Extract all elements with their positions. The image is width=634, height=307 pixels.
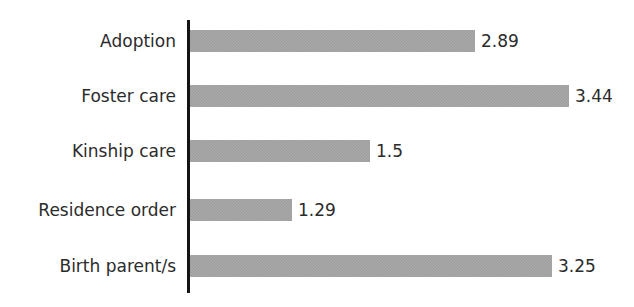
- horizontal-bar-chart: Adoption 2.89 Foster care 3.44 Kinship c…: [0, 0, 634, 307]
- value-label-birth-parents: 3.25: [558, 255, 596, 277]
- bar-birth-parents: [190, 255, 552, 277]
- chart-row: Birth parent/s 3.25: [0, 0, 634, 307]
- category-label-birth-parents: Birth parent/s: [0, 255, 176, 277]
